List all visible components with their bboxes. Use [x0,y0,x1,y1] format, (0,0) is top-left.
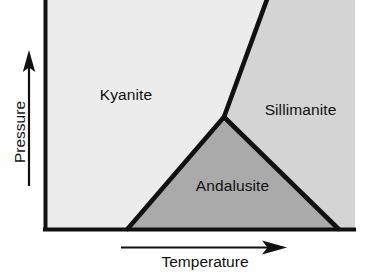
region-label-kyanite: Kyanite [79,86,173,104]
phase-diagram-canvas [0,0,373,279]
region-label-sillimanite: Sillimanite [248,101,353,119]
phase-diagram-figure: Kyanite Sillimanite Andalusite Pressure … [0,0,373,279]
x-axis-label: Temperature [120,253,290,271]
region-label-andalusite: Andalusite [180,177,285,195]
y-axis-label: Pressure [11,62,29,202]
